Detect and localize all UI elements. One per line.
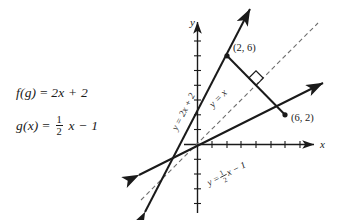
point-2-6-marker (224, 53, 229, 58)
line-g-label: y = 1 2 x − 1 (204, 158, 250, 192)
point-6-2-marker (282, 112, 287, 117)
line-f-label: y = 2x + 2 (169, 91, 197, 133)
identity-line-label: y = x (206, 87, 229, 110)
coordinate-graph: x y (2, 6) (6, 2) y = 2x + 2 y = x y = 1… (0, 0, 339, 220)
x-axis-label: x (319, 138, 325, 150)
right-angle-marker-icon (249, 71, 263, 85)
line-g-half-x-minus-1 (139, 83, 323, 175)
y-axis-label: y (189, 16, 195, 28)
point-2-6-label: (2, 6) (233, 42, 256, 54)
line-g-label-suffix: x − 1 (224, 160, 247, 179)
line-g-label-prefix: y = (204, 173, 221, 188)
point-6-2-label: (6, 2) (291, 112, 314, 124)
